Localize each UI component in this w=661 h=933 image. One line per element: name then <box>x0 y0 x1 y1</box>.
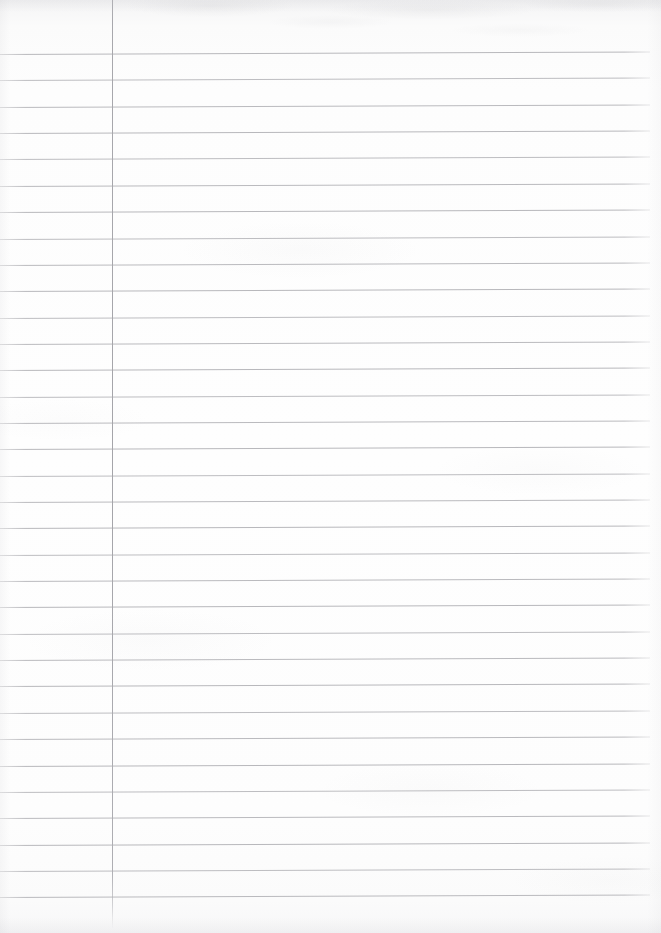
ruled-line <box>0 895 650 898</box>
margin-rule-line <box>112 0 113 928</box>
page-content-text <box>120 60 640 890</box>
scanned-page <box>0 0 661 933</box>
ruled-line <box>0 52 650 55</box>
